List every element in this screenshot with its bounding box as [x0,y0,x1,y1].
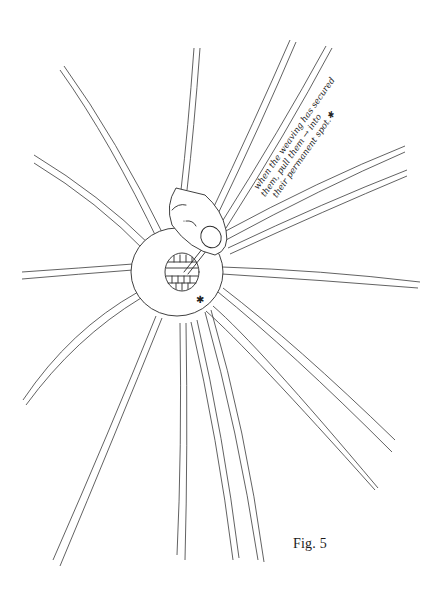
weaving-illustration: ✱ when the weaving has secured them, pul… [0,0,445,598]
figure-caption: Fig. 5 [293,536,327,552]
spokes [22,40,420,566]
asterisk-mark: ✱ [196,294,204,305]
note-line-2: them, pull them → into [258,112,323,199]
